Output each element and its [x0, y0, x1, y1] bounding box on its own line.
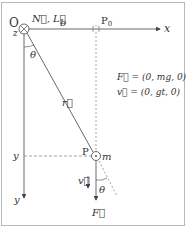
force-label: F⃗: [91, 207, 105, 218]
y-marker-label: y: [12, 150, 19, 161]
angle-top-label: θ: [30, 49, 36, 60]
z-label: z: [12, 28, 18, 38]
x-axis-label: x: [164, 22, 171, 35]
equation-velocity: v⃗ = (0, gt, 0): [117, 87, 181, 97]
mass-label: m: [102, 151, 111, 162]
angle-arc-top: [24, 45, 34, 47]
velocity-label: v⃗: [78, 175, 90, 186]
y-axis-label: y: [13, 194, 20, 205]
position-vector-label: r⃗: [62, 97, 73, 108]
origin-out-of-plane-icon: [19, 24, 29, 34]
p-label: P: [82, 146, 89, 157]
p0-label: P0: [101, 15, 112, 28]
angle-bottom-label: θ: [99, 184, 105, 195]
distance-label: b: [60, 17, 66, 28]
angle-arc-bottom: [96, 178, 107, 180]
equation-force: F⃗ = (0, mg, 0): [116, 72, 187, 82]
position-vector-line: [27, 33, 93, 152]
physics-diagram: O z N⃗, L⃗ b P0 x θ r⃗ F⃗ = (0, mg, 0) v…: [0, 0, 193, 235]
